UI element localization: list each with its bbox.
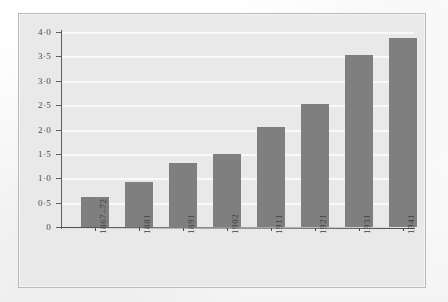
x-tick-label: 1867–72 (99, 198, 108, 234)
y-tick-label: 1·0 (21, 174, 51, 183)
x-tick-mark (359, 228, 360, 231)
y-tick-mark (56, 178, 62, 179)
gridline (62, 32, 414, 33)
x-tick-mark (95, 228, 96, 231)
x-tick-mark (227, 228, 228, 231)
y-tick-label: 0·5 (21, 199, 51, 208)
x-tick-mark (183, 228, 184, 231)
y-tick-label: 4·0 (21, 28, 51, 37)
bar (257, 127, 285, 227)
x-tick-label: 1911 (275, 214, 284, 234)
y-tick-mark (56, 32, 62, 33)
bar (301, 104, 329, 227)
x-tick-mark (403, 228, 404, 231)
y-tick-label: 2·5 (21, 101, 51, 110)
x-tick-label: 1891 (187, 214, 196, 234)
y-tick-mark (56, 105, 62, 106)
y-tick-label: 0 (21, 223, 51, 232)
chart-figure-frame: 00·51·01·52·02·53·03·54·0 1867–721881189… (18, 13, 426, 288)
scanned-page: 00·51·01·52·02·53·03·54·0 1867–721881189… (0, 0, 448, 302)
x-tick-mark (315, 228, 316, 231)
bar (389, 38, 417, 227)
plot-area (62, 32, 414, 227)
y-tick-mark (56, 203, 62, 204)
y-tick-mark (56, 130, 62, 131)
y-tick-label: 1·5 (21, 150, 51, 159)
y-tick-mark (56, 81, 62, 82)
bar (345, 55, 373, 227)
y-tick-mark (56, 154, 62, 155)
x-tick-mark (139, 228, 140, 231)
y-tick-label: 3·5 (21, 52, 51, 61)
y-tick-mark (56, 227, 62, 228)
y-tick-label: 3·0 (21, 77, 51, 86)
x-tick-mark (271, 228, 272, 231)
y-tick-mark (56, 56, 62, 57)
x-tick-label: 1941 (407, 214, 416, 234)
x-tick-label: 1881 (143, 214, 152, 234)
x-tick-label: 1902 (231, 214, 240, 234)
y-tick-label: 2·0 (21, 126, 51, 135)
x-tick-label: 1921 (319, 214, 328, 234)
x-tick-label: 1931 (363, 214, 372, 234)
